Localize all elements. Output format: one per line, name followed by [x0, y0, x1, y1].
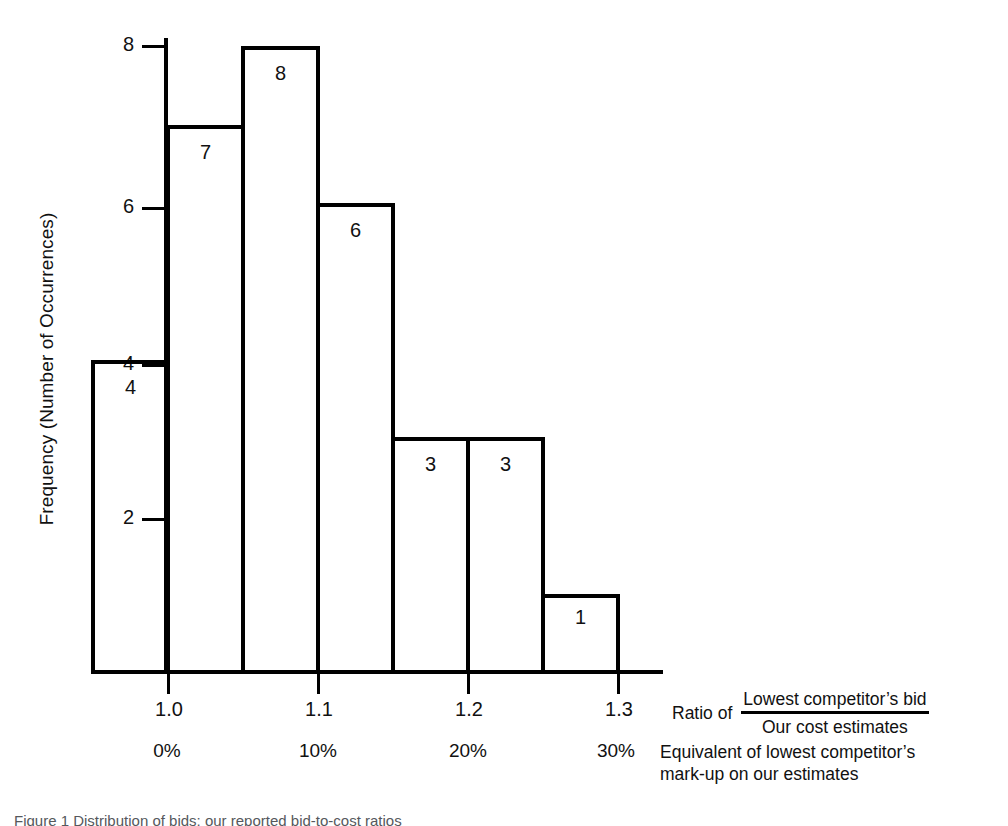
- x-tick-percent-4: 30%: [576, 740, 656, 762]
- y-tick-mark-6: [142, 207, 164, 210]
- x-tick-percent-3: 20%: [428, 740, 508, 762]
- x-tick-label-3: 1.2: [429, 698, 509, 721]
- bar-6: 3: [466, 437, 545, 674]
- markup-line-1: Equivalent of lowest competitor’s: [660, 741, 915, 763]
- bar-7-value: 1: [545, 606, 616, 629]
- bar-4: 6: [316, 203, 395, 674]
- markup-line-2: mark-up on our estimates: [660, 763, 915, 785]
- bar-6-value: 3: [470, 453, 541, 476]
- x-tick-label-1: 1.0: [129, 698, 209, 721]
- y-tick-mark-8: [142, 45, 164, 48]
- bar-3: 8: [241, 46, 320, 674]
- x-tick-mark-3: [467, 674, 470, 694]
- bar-5-value: 3: [395, 453, 466, 476]
- y-tick-label-8-text: 8: [98, 34, 134, 54]
- ratio-numerator: Lowest competitor’s bid: [741, 688, 928, 711]
- ratio-fraction: Lowest competitor’s bid Our cost estimat…: [741, 688, 928, 739]
- ratio-lead-text: Ratio of: [672, 703, 741, 724]
- bar-2: 7: [166, 125, 245, 674]
- x-tick-mark-2: [317, 674, 320, 694]
- bar-4-value: 6: [320, 219, 391, 242]
- y-tick-label-6-text: 6: [98, 196, 134, 216]
- x-tick-mark-1: [167, 674, 170, 694]
- y-tick-label-8: 8: [84, 34, 134, 54]
- ratio-denominator: Our cost estimates: [760, 714, 910, 738]
- markup-annotation: Equivalent of lowest competitor’s mark-u…: [660, 741, 915, 785]
- x-tick-label-4: 1.3: [579, 698, 659, 721]
- bar-1-value: 4: [95, 376, 166, 399]
- bar-5: 3: [391, 437, 470, 674]
- y-axis-title: Frequency (Number of Occurrences): [36, 159, 58, 579]
- bar-1: 4: [91, 360, 170, 674]
- bar-3-value: 8: [245, 62, 316, 85]
- histogram-figure: Frequency (Number of Occurrences) 8 6 4 …: [0, 0, 1008, 826]
- x-tick-percent-1: 0%: [127, 740, 207, 762]
- figure-caption: Figure 1 Distribution of bids: our repor…: [14, 812, 402, 826]
- x-tick-mark-4: [617, 674, 620, 694]
- x-tick-label-2: 1.1: [279, 698, 359, 721]
- bar-7: 1: [541, 594, 620, 674]
- bar-2-value: 7: [170, 141, 241, 164]
- y-tick-label-6: 6: [84, 196, 134, 216]
- x-tick-percent-2: 10%: [278, 740, 358, 762]
- ratio-annotation: Ratio of Lowest competitor’s bid Our cos…: [672, 688, 929, 739]
